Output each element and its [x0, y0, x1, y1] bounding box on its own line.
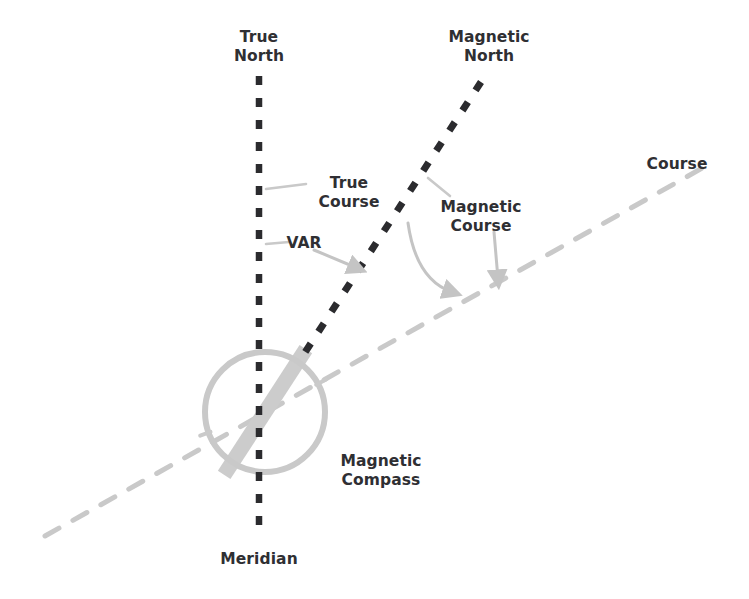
diagram-graphics [0, 0, 749, 599]
magnetic-course-arrow [494, 232, 498, 279]
label-magnetic-course: Magnetic Course [440, 198, 521, 236]
magnetic-course-leader-line [428, 178, 450, 196]
true-course-leader-line [266, 184, 306, 189]
label-magnetic-compass: Magnetic Compass [340, 452, 421, 490]
label-var: VAR [286, 234, 321, 253]
diagram-canvas: True North Magnetic North Course True Co… [0, 0, 749, 599]
label-true-course: True Course [318, 174, 379, 212]
label-course: Course [646, 155, 707, 174]
label-meridian: Meridian [220, 550, 298, 569]
label-true-north: True North [234, 28, 284, 66]
compass-needle [224, 349, 306, 475]
label-magnetic-north: Magnetic North [448, 28, 529, 66]
magnetic-compass-glyph [200, 349, 326, 475]
